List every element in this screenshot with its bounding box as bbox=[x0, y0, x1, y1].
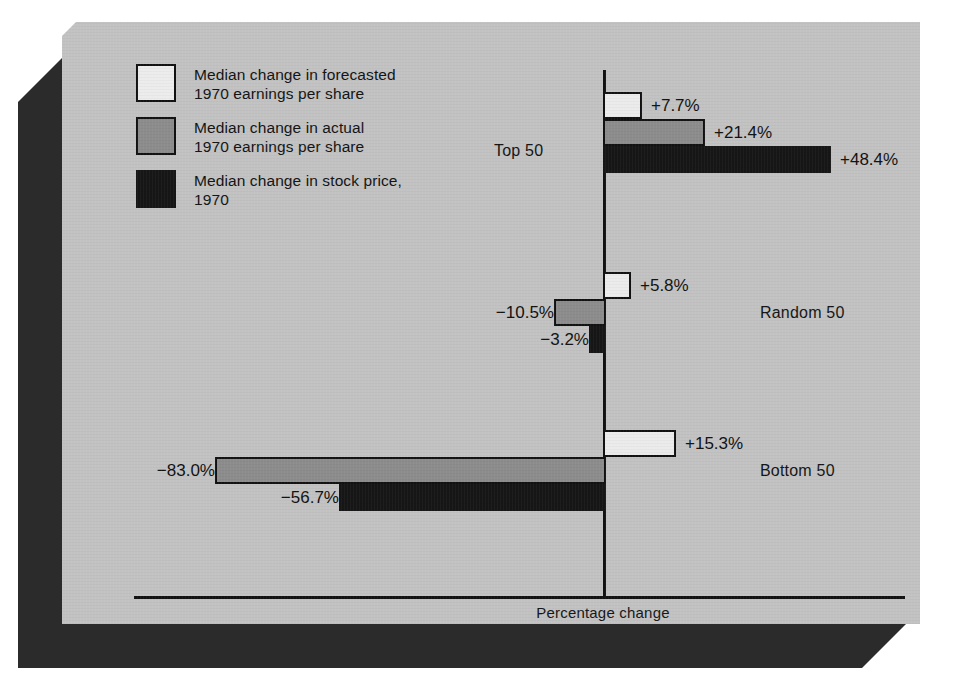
legend-label-forecast-line2: 1970 earnings per share bbox=[194, 85, 364, 102]
bar-value-top50-stock: +48.4% bbox=[831, 146, 898, 173]
bar-value-bottom50-stock: −56.7% bbox=[209, 484, 348, 511]
bar-random50-forecast bbox=[603, 272, 631, 299]
x-axis-line bbox=[134, 596, 905, 599]
x-axis-title: Percentage change bbox=[62, 604, 961, 621]
bar-bottom50-forecast bbox=[603, 430, 676, 457]
legend-swatch-stock-icon bbox=[136, 170, 176, 208]
legend-label-forecast-line1: Median change in forecasted bbox=[194, 66, 396, 83]
legend-label-actual: Median change in actual 1970 earnings pe… bbox=[194, 117, 364, 156]
legend-item-stock: Median change in stock price, 1970 bbox=[136, 170, 402, 209]
bar-top50-stock bbox=[603, 146, 831, 173]
bar-bottom50-actual bbox=[215, 457, 606, 484]
bar-value-bottom50-actual: −83.0% bbox=[85, 457, 224, 484]
legend-swatch-forecast-icon bbox=[136, 64, 176, 102]
bar-value-top50-actual: +21.4% bbox=[705, 119, 772, 146]
legend-item-actual: Median change in actual 1970 earnings pe… bbox=[136, 117, 402, 156]
legend-label-stock-line2: 1970 bbox=[194, 191, 229, 208]
group-label-top-50: Top 50 bbox=[494, 142, 543, 160]
bar-value-bottom50-forecast: +15.3% bbox=[676, 430, 743, 457]
group-label-bottom-50: Bottom 50 bbox=[760, 462, 835, 480]
legend-item-forecast: Median change in forecasted 1970 earning… bbox=[136, 64, 402, 103]
bar-value-random50-actual: −10.5% bbox=[434, 299, 563, 326]
legend-swatch-actual-icon bbox=[136, 117, 176, 155]
bar-top50-forecast bbox=[603, 92, 642, 119]
legend-label-actual-line1: Median change in actual bbox=[194, 119, 364, 136]
bar-value-random50-forecast: +5.8% bbox=[631, 272, 689, 299]
legend: Median change in forecasted 1970 earning… bbox=[136, 64, 402, 223]
bar-value-top50-forecast: +7.7% bbox=[642, 92, 700, 119]
bar-top50-actual bbox=[603, 119, 705, 146]
group-label-random-50: Random 50 bbox=[760, 304, 845, 322]
chart-figure: Median change in forecasted 1970 earning… bbox=[0, 0, 961, 699]
legend-label-stock: Median change in stock price, 1970 bbox=[194, 170, 402, 209]
chart-panel: Median change in forecasted 1970 earning… bbox=[62, 22, 920, 624]
legend-label-forecast: Median change in forecasted 1970 earning… bbox=[194, 64, 396, 103]
plot-area: Median change in forecasted 1970 earning… bbox=[62, 22, 920, 624]
legend-label-stock-line1: Median change in stock price, bbox=[194, 172, 402, 189]
bar-bottom50-stock bbox=[339, 484, 606, 511]
legend-label-actual-line2: 1970 earnings per share bbox=[194, 138, 364, 155]
bar-value-random50-stock: −3.2% bbox=[469, 326, 598, 353]
